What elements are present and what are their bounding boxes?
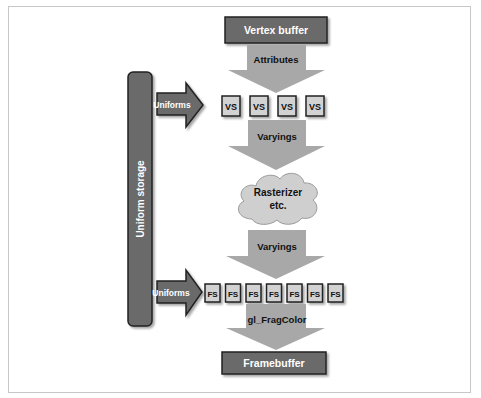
svg-text:FS: FS (248, 290, 259, 299)
vertex-shader-box: VS (250, 96, 268, 116)
svg-text:FS: FS (289, 290, 300, 299)
framebuffer-node: Framebuffer (222, 352, 326, 374)
uniforms-vs-label: Uniforms (153, 100, 191, 110)
svg-text:VS: VS (309, 102, 321, 112)
fragment-shader-box: FS (328, 284, 343, 302)
fragment-shader-box: FS (287, 284, 302, 302)
rasterizer-label: Rasterizer (254, 187, 302, 198)
pipeline-diagram: Uniform storage Vertex buffer Attributes… (0, 0, 481, 398)
varyings-top-arrow: Varyings (228, 120, 325, 170)
fragment-shader-box: FS (308, 284, 323, 302)
vertex-buffer-label: Vertex buffer (244, 24, 308, 36)
fragment-shader-box: FS (267, 284, 282, 302)
svg-text:VS: VS (253, 102, 265, 112)
svg-text:FS: FS (207, 290, 218, 299)
svg-text:VS: VS (225, 102, 237, 112)
rasterizer-etc-label: etc. (269, 200, 286, 211)
svg-text:FS: FS (330, 290, 341, 299)
rasterizer-cloud: Rasterizer etc. (238, 173, 317, 224)
fragment-shader-box: FS (205, 284, 220, 302)
gl-fragcolor-label: gl_FragColor (247, 314, 306, 325)
fragment-shader-row: FS FS FS FS FS FS FS (205, 284, 343, 302)
uniform-storage-label: Uniform storage (135, 160, 146, 238)
varyings-bottom-arrow: Varyings (226, 230, 325, 279)
framebuffer-label: Framebuffer (243, 357, 304, 369)
vertex-shader-box: VS (306, 96, 324, 116)
vertex-shader-box: VS (278, 96, 296, 116)
fragment-shader-box: FS (246, 284, 261, 302)
svg-text:FS: FS (228, 290, 239, 299)
vertex-shader-row: VS VS VS VS (222, 96, 324, 116)
attributes-arrow: Attributes (228, 45, 325, 93)
uniforms-fs-arrow: Uniforms (152, 270, 202, 315)
vertex-shader-box: VS (222, 96, 240, 116)
svg-text:VS: VS (281, 102, 293, 112)
uniforms-fs-label: Uniforms (152, 288, 190, 298)
varyings-bottom-label: Varyings (257, 241, 297, 252)
vertex-buffer-node: Vertex buffer (225, 17, 327, 43)
fragment-shader-box: FS (226, 284, 241, 302)
gl-fragcolor-arrow: gl_FragColor (226, 304, 325, 350)
attributes-label: Attributes (254, 54, 299, 65)
svg-text:FS: FS (269, 290, 280, 299)
uniform-storage-node: Uniform storage (128, 72, 152, 326)
uniforms-vs-arrow: Uniforms (153, 83, 203, 127)
svg-text:FS: FS (310, 290, 321, 299)
varyings-top-label: Varyings (257, 131, 297, 142)
